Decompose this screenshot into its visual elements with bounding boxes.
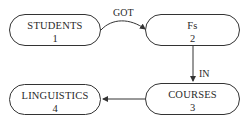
node-name: Fs bbox=[146, 20, 239, 31]
node-name: LINGUISTICS bbox=[10, 90, 100, 101]
node-linguistics: LINGUISTICS 4 bbox=[9, 84, 101, 115]
node-students: STUDENTS 1 bbox=[9, 14, 101, 46]
node-name: COURSES bbox=[146, 89, 239, 100]
edge-label-in: IN bbox=[199, 68, 210, 79]
edge-label-got: GOT bbox=[113, 7, 134, 18]
node-courses: COURSES 3 bbox=[145, 83, 240, 115]
node-number: 2 bbox=[146, 33, 239, 44]
node-number: 3 bbox=[146, 102, 239, 113]
edge-got bbox=[101, 21, 145, 30]
node-number: 1 bbox=[10, 33, 100, 44]
node-fs: Fs 2 bbox=[145, 14, 240, 46]
node-name: STUDENTS bbox=[10, 20, 100, 31]
node-number: 4 bbox=[10, 103, 100, 114]
